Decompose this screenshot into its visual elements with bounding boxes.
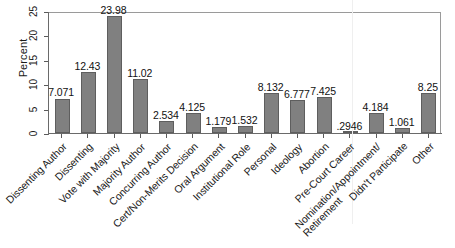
x-tick-mark [87, 134, 88, 138]
x-tick-mark [323, 134, 324, 138]
y-tick-label: 20 [28, 25, 39, 47]
x-tick-mark [61, 134, 62, 138]
y-tick-label: 15 [28, 49, 39, 71]
x-tick-mark [402, 134, 403, 138]
x-tick-mark [245, 134, 246, 138]
bar [290, 100, 305, 133]
x-tick-mark [428, 134, 429, 138]
bar-value-label: .2946 [329, 120, 369, 132]
y-tick-label: 25 [28, 1, 39, 23]
x-tick-mark [349, 134, 350, 138]
x-tick-mark [192, 134, 193, 138]
bar [55, 99, 70, 134]
bar [238, 126, 253, 133]
x-tick-mark [271, 134, 272, 138]
bar [81, 72, 96, 133]
x-tick-mark [114, 134, 115, 138]
x-axis-label: Other [410, 141, 436, 167]
bar-value-label: 12.43 [67, 60, 107, 72]
bar-value-label: 8.25 [408, 81, 448, 93]
y-tick-label: 0 [28, 123, 39, 145]
bar-chart: Percent 0510152025 7.07112.4323.9811.022… [0, 0, 455, 248]
bar-value-label: 7.071 [41, 86, 81, 98]
bar-value-label: 4.125 [172, 101, 212, 113]
bar [133, 79, 148, 133]
y-tick-label: 10 [28, 74, 39, 96]
bar-value-label: 1.061 [382, 116, 422, 128]
bar [421, 93, 436, 133]
x-tick-mark [166, 134, 167, 138]
x-tick-mark [297, 134, 298, 138]
bar [159, 121, 174, 133]
x-tick-mark [218, 134, 219, 138]
bar-value-label: 23.98 [94, 4, 134, 16]
x-tick-mark [140, 134, 141, 138]
bar-value-label: 11.02 [120, 67, 160, 79]
bar-value-label: 4.184 [356, 101, 396, 113]
bar [395, 128, 410, 133]
y-tick-label: 5 [28, 98, 39, 120]
bar-value-label: 1.532 [225, 114, 265, 126]
y-axis-line [48, 12, 49, 135]
bar [212, 127, 227, 133]
bar-value-label: 7.425 [303, 85, 343, 97]
x-tick-mark [376, 134, 377, 138]
